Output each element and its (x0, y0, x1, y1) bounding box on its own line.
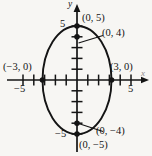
point-label-0-neg4: (0, −4) (96, 126, 125, 137)
point-marker-0-neg5 (74, 131, 80, 137)
point-marker-3-0 (109, 77, 115, 83)
point-label-0-neg5: (0, −5) (79, 140, 108, 151)
tick-label-x-neg5: −5 (14, 84, 25, 95)
ellipse-graph-figure: y x 5 −5 −5 5 (0, 5) (0, 4) (3, 0) (−3, … (0, 0, 152, 156)
tick-label-y-5: 5 (60, 19, 65, 30)
x-axis-label: x (141, 69, 145, 78)
y-axis-label: y (68, 0, 72, 10)
graph-canvas (0, 0, 152, 156)
point-label-3-0: (3, 0) (110, 62, 133, 73)
tick-label-y-neg5: −5 (55, 129, 66, 140)
point-marker-neg3-0 (40, 77, 46, 83)
point-marker-0-4 (74, 34, 80, 40)
point-marker-0-neg4 (74, 120, 80, 126)
point-label-neg3-0: (−3, 0) (3, 62, 32, 73)
point-label-0-5: (0, 5) (82, 13, 105, 24)
point-marker-0-5 (74, 23, 80, 29)
point-label-0-4: (0, 4) (102, 28, 125, 39)
tick-label-x-5: 5 (128, 84, 133, 95)
